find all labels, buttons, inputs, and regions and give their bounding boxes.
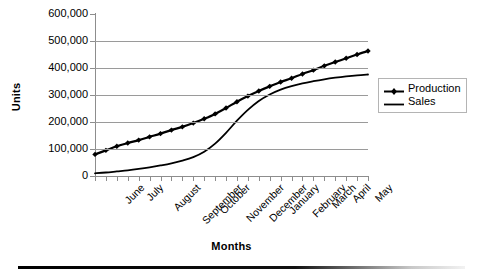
series-sales [95, 74, 368, 173]
y-axis-tick-label: 400,000 [30, 62, 88, 73]
gridline [95, 149, 368, 150]
x-axis-tick-mark [139, 177, 140, 181]
data-point-marker [343, 56, 348, 61]
x-axis-tick-mark [182, 177, 183, 181]
data-point-marker [365, 48, 370, 53]
y-axis-tick-labels: 600,000500,000400,000300,000200,000100,0… [28, 0, 88, 277]
y-axis-tick-mark [90, 95, 95, 96]
x-axis-tick-mark [150, 177, 151, 181]
y-axis-tick-mark [90, 14, 95, 15]
data-point-marker [92, 152, 97, 157]
series-line [95, 74, 368, 173]
gridline [95, 95, 368, 96]
data-point-marker [125, 140, 130, 145]
x-axis-tick-mark [270, 177, 271, 181]
bottom-divider [18, 266, 465, 269]
x-axis-tick-mark [357, 177, 358, 181]
gridline [95, 41, 368, 42]
x-axis-tick-mark [215, 177, 216, 181]
y-axis-tick-label: 100,000 [30, 143, 88, 154]
y-axis-tick-label: 600,000 [30, 8, 88, 19]
series-line [95, 51, 368, 154]
chart-legend: ProductionSales [378, 78, 467, 113]
line-chart: Units 600,000500,000400,000300,000200,00… [0, 0, 480, 277]
gridline [95, 122, 368, 123]
y-axis-tick-mark [90, 122, 95, 123]
x-axis-tick-mark [106, 177, 107, 181]
y-axis-tick-mark [90, 41, 95, 42]
x-axis-tick-label: July [145, 182, 166, 203]
data-point-marker [147, 134, 152, 139]
legend-item: Production [383, 82, 461, 95]
x-axis-tick-mark [161, 177, 162, 181]
x-axis-tick-mark [226, 177, 227, 181]
x-axis-tick-mark [171, 177, 172, 181]
x-axis-tick-mark [368, 177, 369, 181]
data-point-marker [136, 137, 141, 142]
x-axis-tick-mark [237, 177, 238, 181]
data-point-marker [169, 127, 174, 132]
y-axis-tick-label: 200,000 [30, 116, 88, 127]
data-point-marker [354, 52, 359, 57]
y-axis-tick-mark [90, 68, 95, 69]
legend-label: Sales [408, 96, 436, 107]
x-axis-tick-mark [324, 177, 325, 181]
x-axis-tick-mark [346, 177, 347, 181]
x-axis-tick-labels: JuneJulyAugustSeptemberOctoberNovemberDe… [95, 176, 385, 236]
data-point-marker [333, 59, 338, 64]
legend-label: Production [408, 83, 461, 94]
x-axis-tick-mark [259, 177, 260, 181]
y-axis-tick-mark [90, 149, 95, 150]
y-axis-title: Units [10, 62, 22, 132]
legend-diamond-line-icon [383, 83, 405, 94]
y-axis-tick-label: 500,000 [30, 35, 88, 46]
series-production [92, 48, 370, 157]
gridline [95, 68, 368, 69]
legend-line-icon [383, 96, 405, 107]
y-axis-tick-label: 300,000 [30, 89, 88, 100]
x-axis-tick-label: August [171, 182, 202, 213]
y-axis-tick-label: 0 [30, 170, 88, 181]
x-axis-tick-mark [204, 177, 205, 181]
x-axis-title: Months [95, 240, 368, 252]
x-axis-tick-mark [302, 177, 303, 181]
data-point-marker [158, 131, 163, 136]
x-axis-tick-mark [95, 177, 96, 181]
x-axis-tick-mark [292, 177, 293, 181]
x-axis-tick-mark [281, 177, 282, 181]
x-axis-tick-label: May [372, 182, 394, 204]
data-point-marker [180, 124, 185, 129]
x-axis-tick-mark [193, 177, 194, 181]
x-axis-tick-mark [313, 177, 314, 181]
legend-item: Sales [383, 95, 461, 108]
plot-area [95, 14, 368, 176]
x-axis-tick-mark [248, 177, 249, 181]
x-axis-tick-mark [128, 177, 129, 181]
x-axis-tick-mark [117, 177, 118, 181]
x-axis-tick-mark [335, 177, 336, 181]
